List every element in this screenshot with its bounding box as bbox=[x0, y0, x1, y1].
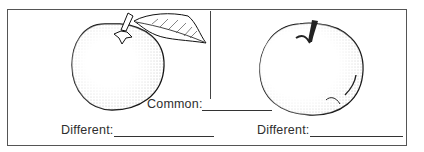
common-answer-line[interactable] bbox=[202, 110, 272, 111]
common-label: Common: bbox=[147, 97, 203, 111]
different-left-answer-line[interactable] bbox=[114, 136, 214, 137]
different-right-answer-line[interactable] bbox=[310, 136, 403, 137]
different-left-label: Different: bbox=[61, 123, 114, 137]
orange-icon bbox=[72, 13, 206, 110]
apple-icon bbox=[260, 20, 363, 115]
different-right-label: Different: bbox=[257, 123, 310, 137]
